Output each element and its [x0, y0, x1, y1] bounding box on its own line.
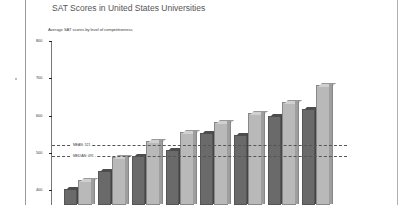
bar-light [78, 180, 92, 205]
bar-top-face [80, 178, 98, 182]
bar-dark [64, 189, 77, 205]
bar-side-face [295, 101, 299, 204]
bar-light [146, 141, 160, 205]
bar-top-face [250, 111, 268, 115]
bar-dark [166, 150, 179, 205]
bar-top-face [148, 139, 166, 143]
right-border [397, 0, 398, 205]
bar-top-face [318, 83, 336, 87]
bar-light [282, 102, 296, 205]
reference-line [52, 156, 347, 157]
reference-line [52, 145, 347, 146]
y-tick [49, 78, 52, 79]
marker-dot [15, 78, 17, 80]
chart-title: SAT Scores in United States Universities [52, 3, 205, 13]
bar-dark [132, 156, 145, 205]
bar-light [180, 132, 194, 205]
y-tick-label: 400 [36, 188, 42, 192]
y-tick [49, 190, 52, 191]
y-tick [49, 116, 52, 117]
bar-side-face [91, 179, 95, 204]
bar-light [112, 157, 126, 205]
chart-subtitle: Average SAT scores by level of competiti… [48, 27, 133, 32]
bar-top-face [284, 100, 302, 104]
y-tick [49, 153, 52, 154]
bar-side-face [261, 112, 265, 204]
bar-top-face [182, 130, 200, 134]
y-tick-label: 700 [36, 76, 42, 80]
bar-dark [98, 171, 111, 205]
y-axis [51, 42, 52, 205]
y-tick-label: 800 [36, 39, 42, 43]
bar-light [248, 113, 262, 205]
bar-dark [200, 133, 213, 205]
bar-dark [268, 116, 281, 205]
bar-top-face [216, 120, 234, 124]
bar-light [214, 122, 228, 205]
bar-side-face [227, 121, 231, 204]
left-border [25, 0, 26, 205]
bar-side-face [125, 156, 129, 204]
y-tick-label: 600 [36, 114, 42, 118]
y-tick [49, 41, 52, 42]
bar-side-face [159, 140, 163, 204]
bar-side-face [193, 131, 197, 204]
reference-line-label: MEAN: 521 [72, 143, 91, 147]
reference-line-label: MEDIAN: 491 [72, 154, 95, 158]
y-tick-label: 500 [36, 151, 42, 155]
